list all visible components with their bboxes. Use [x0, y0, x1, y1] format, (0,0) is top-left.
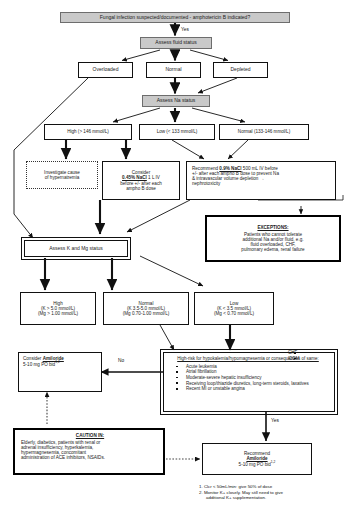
node-fluid-depleted: Depleted [213, 62, 268, 78]
node-na-high: High (> 146 mmol/L) [44, 124, 132, 140]
node-assess-fluid-label: Assess fluid status [155, 40, 196, 46]
edge-label-yes-risk: Yes [271, 418, 279, 423]
node-assess-na-status: Assess Na status [142, 95, 210, 107]
high-risk-list: Acute leukemia Atrial fibrillation Moder… [164, 363, 332, 403]
node-recommend-nacl-09: Recommend 0.9% NaCl 500 mL IV before +/-… [186, 161, 336, 200]
node-assess-na-label: Assess Na status [157, 98, 196, 104]
list-item: Moderate-severe hepatic insufficiency [164, 375, 332, 380]
footnotes: 1. Clcr < 50mL/min: give 50% of dose 2. … [199, 484, 344, 501]
node-na-normal-label: Normal (133-146 mmol/L) [238, 129, 290, 134]
node-fluid-normal: Normal [146, 62, 201, 78]
node-na-normal: Normal (133-146 mmol/L) [219, 124, 309, 140]
node-fluid-depleted-label: Depleted [230, 67, 250, 73]
node-start-label: Fungal infection suspected/documented - … [100, 15, 250, 21]
list-item: IDDM [282, 356, 350, 361]
node-na-low: Low (< 133 mmol/L) [139, 124, 215, 140]
caution-heading: CAUTION IN: [21, 433, 159, 438]
k-normal-line3: (Mg 0.70-1.00 mmol/L) [123, 311, 169, 316]
investigate-line2: of hypernatremia [45, 175, 79, 180]
nacl045-line4: ampho B dose [126, 186, 156, 191]
assess-kmg-label: Assess K and Mg status [49, 246, 103, 252]
node-caution: CAUTION IN: Elderly, diabetics, patients… [13, 428, 165, 475]
node-start: Fungal infection suspected/documented - … [60, 12, 290, 23]
k-low-line3: (Mg < 0.70 mmol/L) [214, 311, 254, 316]
node-consider-amiloride: Consider Amiloride 5-10 mg PO bid1,2 [18, 352, 102, 392]
node-recommend-amiloride: Recommend Amiloride 5-10 mg PO bid1,2 [202, 443, 312, 475]
node-assess-k-mg-status: Assess K and Mg status [24, 240, 128, 257]
caution-line4: administration of ACE inhibitors, NSAIDs… [21, 455, 105, 460]
k-high-line3: (Mg > 1.00 mmol/L) [38, 311, 78, 316]
node-fluid-overloaded: Overloaded [78, 62, 133, 78]
node-consider-nacl-045: Consider 0.45% NaCl 1 L IV before +/- af… [102, 161, 180, 200]
node-k-normal: Normal (K 3.5-5.0 mmol/L) (Mg 0.70-1.00 … [103, 292, 189, 325]
exceptions-line4: pulmonary edema, renal failure [241, 247, 304, 252]
edge-label-no: No [118, 358, 124, 363]
list-item: Receiving loop/thiazide diuretics, long-… [164, 381, 332, 386]
list-item: Atrial fibrillation [164, 369, 332, 374]
flowchart-canvas: Fungal infection suspected/documented - … [0, 0, 350, 511]
node-assess-fluid-status: Assess fluid status [140, 37, 212, 49]
node-k-high: High (K > 5.0 mmol/L) (Mg > 1.00 mmol/L) [20, 292, 96, 325]
node-na-low-label: Low (< 133 mmol/L) [157, 129, 198, 134]
list-item: Recent MI or unstable angina [164, 386, 332, 391]
exceptions-heading: EXCEPTIONS: [257, 225, 288, 230]
node-na-high-label: High (> 146 mmol/L) [67, 129, 109, 134]
recommend-amiloride-footnote-ref: 1,2 [271, 460, 276, 464]
node-investigate-hypernatremia: Investigate cause of hypernatremia [26, 161, 98, 189]
list-item: CHF [282, 350, 350, 355]
node-k-low: Low (K < 3.5 mmol/L) (Mg < 0.70 mmol/L) [194, 292, 274, 325]
node-fluid-normal-label: Normal [165, 67, 181, 73]
consider-amiloride-footnote-ref: 1,2 [55, 360, 60, 364]
node-high-risk-criteria: High-risk for hypokalemia/hypomagnesemia… [163, 352, 335, 412]
list-item: Acute leukemia [164, 364, 332, 369]
nacl09-line4: nephrotoxicity [192, 181, 220, 186]
node-exceptions: EXCEPTIONS: Patients who cannot tolerate… [205, 215, 341, 262]
recommend-amiloride-dose: 5-10 mg PO bid [239, 462, 271, 467]
edge-label-yes-top: Yes [181, 27, 189, 32]
consider-amiloride-dose: 5-10 mg PO bid [23, 362, 55, 367]
footnote-2-cont: additional K+ supplementation. [199, 495, 344, 501]
node-fluid-overloaded-label: Overloaded [93, 67, 119, 73]
